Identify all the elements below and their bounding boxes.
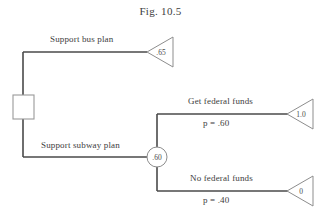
branch-label-support-subway-plan: Support subway plan [41,140,120,150]
decision-tree-graphic [0,0,321,216]
branch-label-get-federal-funds: Get federal funds [188,96,253,106]
tree-edges [23,52,288,191]
tree-nodes [13,37,313,206]
node-value-federal-yes-outcome: 1.0 [292,110,310,119]
probability-label-no-federal-funds: p = .40 [203,195,229,205]
branch-label-support-bus-plan: Support bus plan [50,34,113,44]
decision-tree-figure: Fig. 10.5 [0,0,321,216]
decision-node-square [13,95,34,119]
node-value-federal-no-outcome: 0 [292,187,310,196]
branch-label-no-federal-funds: No federal funds [190,173,253,183]
node-value-chance-node: .60 [148,153,166,162]
node-value-bus-outcome: .65 [152,48,170,57]
probability-label-get-federal-funds: p = .60 [203,118,229,128]
